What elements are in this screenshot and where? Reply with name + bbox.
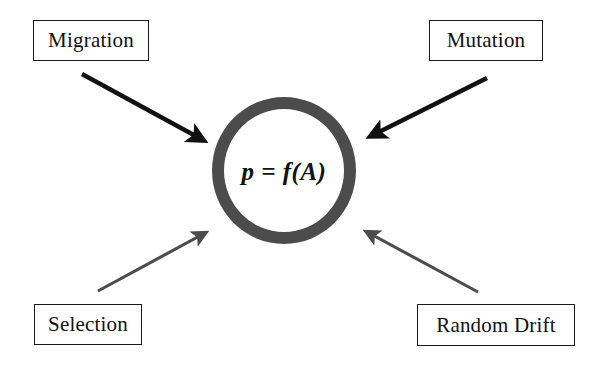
diagram-canvas: p = f(A) Migration Mutation Selection Ra… (0, 0, 605, 370)
factor-label-mutation[interactable]: Mutation (429, 20, 543, 61)
factor-label-random-drift[interactable]: Random Drift (417, 304, 575, 346)
allele-frequency-formula: p = f(A) (242, 158, 327, 186)
arrow-mutation (371, 78, 487, 136)
allele-frequency-circle: p = f(A) (212, 97, 356, 244)
factor-label-migration-text: Migration (48, 30, 134, 51)
arrow-migration (82, 74, 203, 140)
factor-label-random-drift-text: Random Drift (436, 315, 556, 336)
arrow-selection (98, 233, 205, 291)
factor-label-selection-text: Selection (48, 314, 128, 335)
factor-label-selection[interactable]: Selection (34, 304, 142, 345)
factor-label-migration[interactable]: Migration (33, 20, 149, 61)
arrow-random-drift (367, 232, 478, 292)
factor-label-mutation-text: Mutation (447, 30, 526, 51)
